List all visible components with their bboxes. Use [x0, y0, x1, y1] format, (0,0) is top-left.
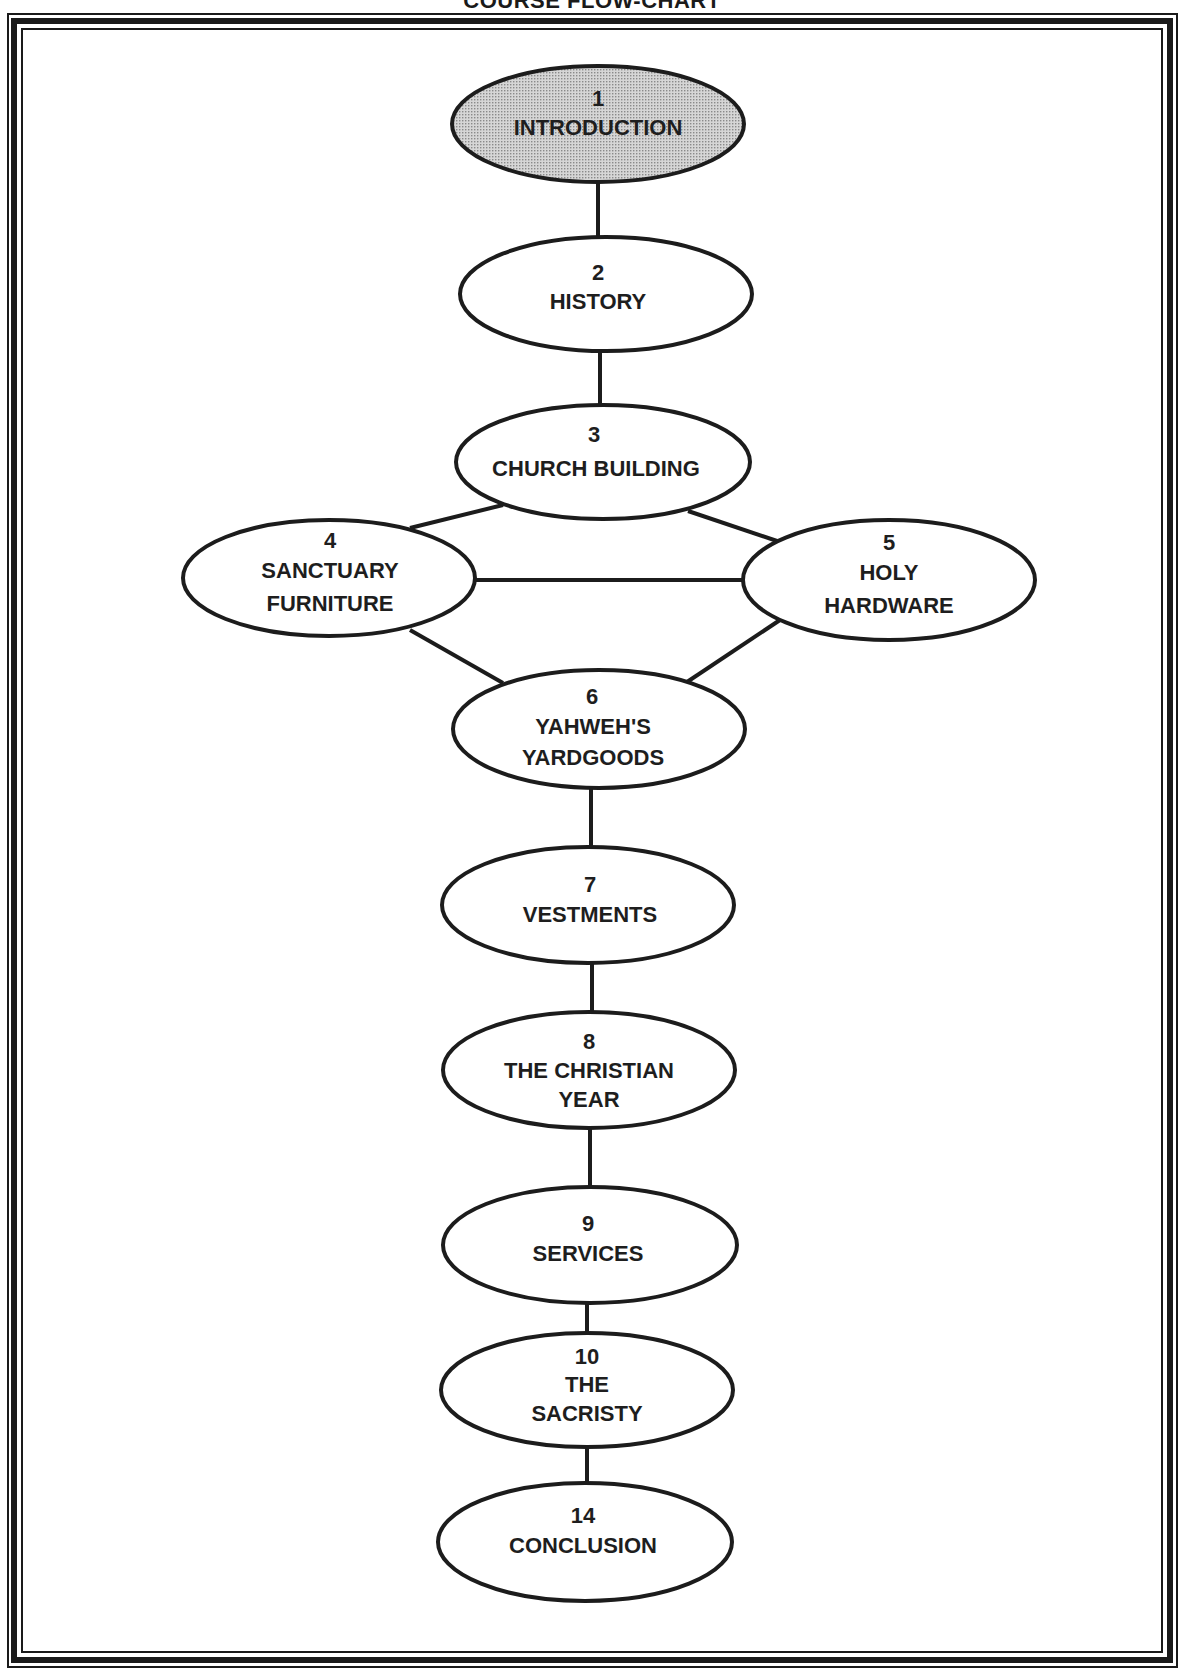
edge-3-5 — [688, 511, 780, 542]
node-title: SERVICES — [533, 1241, 644, 1266]
node-title-line-2: HARDWARE — [824, 593, 954, 618]
node-title-line-2: YEAR — [558, 1087, 619, 1112]
node-church-building: 3 CHURCH BUILDING — [456, 405, 750, 519]
node-title: CONCLUSION — [509, 1533, 657, 1558]
node-title-line-2: FURNITURE — [266, 591, 393, 616]
node-title-line-1: THE CHRISTIAN — [504, 1058, 674, 1083]
flowchart-canvas: 1 INTRODUCTION 2 HISTORY 3 CHURCH BUILDI… — [0, 0, 1184, 1669]
node-services: 9 SERVICES — [443, 1187, 737, 1303]
node-number: 4 — [324, 528, 337, 553]
node-title-line-1: THE — [565, 1372, 609, 1397]
node-title: CHURCH BUILDING — [492, 456, 700, 481]
node-number: 8 — [583, 1029, 595, 1054]
node-number: 10 — [575, 1344, 599, 1369]
edge-3-4 — [410, 505, 503, 528]
node-title: VESTMENTS — [523, 902, 657, 927]
node-sanctuary-furniture: 4 SANCTUARY FURNITURE — [183, 520, 475, 636]
node-number: 5 — [883, 530, 895, 555]
node-vestments: 7 VESTMENTS — [442, 847, 734, 963]
node-holy-hardware: 5 HOLY HARDWARE — [743, 520, 1035, 640]
node-number: 7 — [584, 872, 596, 897]
node-conclusion: 14 CONCLUSION — [438, 1483, 732, 1601]
node-introduction: 1 INTRODUCTION — [452, 66, 744, 182]
node-number: 1 — [592, 86, 604, 111]
node-title-line-2: SACRISTY — [531, 1401, 643, 1426]
node-number: 6 — [586, 684, 598, 709]
node-title: HISTORY — [550, 289, 647, 314]
node-the-sacristy: 10 THE SACRISTY — [441, 1333, 733, 1447]
node-title-line-1: HOLY — [859, 560, 918, 585]
node-christian-year: 8 THE CHRISTIAN YEAR — [443, 1012, 735, 1128]
node-yahwehs-yardgoods: 6 YAHWEH'S YARDGOODS — [453, 670, 745, 788]
node-title-line-2: YARDGOODS — [522, 745, 664, 770]
node-number: 2 — [592, 260, 604, 285]
node-number: 9 — [582, 1211, 594, 1236]
edge-4-6 — [410, 630, 503, 683]
node-history: 2 HISTORY — [460, 237, 752, 351]
node-title-line-1: YAHWEH'S — [535, 714, 651, 739]
node-title: INTRODUCTION — [514, 115, 683, 140]
edge-5-6 — [687, 620, 780, 682]
node-title-line-1: SANCTUARY — [261, 558, 399, 583]
node-number: 14 — [571, 1503, 596, 1528]
node-number: 3 — [588, 422, 600, 447]
